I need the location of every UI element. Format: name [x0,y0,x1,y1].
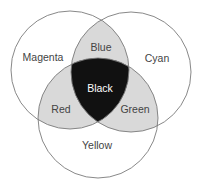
venn-diagram: Magenta Cyan Blue Black Red Green Yellow [0,0,200,182]
label-black: Black [87,82,113,94]
label-green: Green [120,103,149,115]
label-cyan: Cyan [145,52,170,64]
label-magenta: Magenta [23,51,64,63]
label-red: Red [51,103,70,115]
label-yellow: Yellow [82,139,112,151]
label-blue: Blue [90,41,111,53]
